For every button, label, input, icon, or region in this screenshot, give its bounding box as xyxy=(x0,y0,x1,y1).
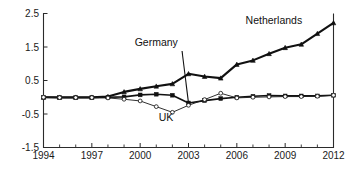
data-point-marker xyxy=(203,98,207,102)
x-tick-label: 1994 xyxy=(32,150,55,161)
data-point-marker xyxy=(90,96,94,100)
data-point-marker xyxy=(74,96,78,100)
x-axis-ticks: 1994199720002003200620092012 xyxy=(32,143,345,161)
data-point-marker xyxy=(315,94,319,98)
data-point-marker xyxy=(42,95,46,99)
series-label-netherlands: Netherlands xyxy=(246,14,303,26)
data-point-marker xyxy=(154,92,158,96)
data-point-marker xyxy=(154,105,158,109)
data-point-marker xyxy=(106,96,110,100)
y-tick-label: 2.5 xyxy=(25,8,39,19)
data-point-marker xyxy=(283,95,287,99)
data-point-marker xyxy=(235,96,239,100)
data-point-marker xyxy=(138,99,142,103)
data-point-marker xyxy=(251,95,255,99)
x-tick-label: 2003 xyxy=(177,150,200,161)
data-point-marker xyxy=(58,96,62,100)
x-tick-label: 2009 xyxy=(274,150,297,161)
data-point-marker xyxy=(122,97,126,101)
annotation-group: NetherlandsGermanyUK xyxy=(135,14,303,123)
axis-frame xyxy=(44,14,334,148)
y-tick-label: 0.5 xyxy=(25,75,39,86)
data-point-marker xyxy=(138,93,142,97)
y-tick-label: -0.5 xyxy=(22,109,40,120)
axis-spine xyxy=(44,14,334,148)
data-point-marker xyxy=(187,103,191,107)
x-tick-label: 2012 xyxy=(322,150,345,161)
series-netherlands xyxy=(41,21,336,100)
series-label-germany: Germany xyxy=(135,36,179,48)
x-tick-label: 2006 xyxy=(226,150,249,161)
series-group xyxy=(41,21,336,115)
x-tick-label: 2000 xyxy=(129,150,152,161)
data-point-marker xyxy=(219,91,223,95)
data-point-marker xyxy=(219,97,223,101)
line-chart: -1.5-0.50.51.52.5 1994199720002003200620… xyxy=(0,0,352,174)
data-point-marker xyxy=(170,93,174,97)
data-point-marker xyxy=(299,95,303,99)
series-line xyxy=(44,23,334,97)
series-label-uk: UK xyxy=(159,111,174,123)
chart-canvas: -1.5-0.50.51.52.5 1994199720002003200620… xyxy=(0,0,352,174)
data-point-marker xyxy=(267,95,271,99)
y-tick-label: 1.5 xyxy=(25,42,39,53)
x-tick-label: 1997 xyxy=(81,150,104,161)
data-point-marker xyxy=(332,93,336,97)
